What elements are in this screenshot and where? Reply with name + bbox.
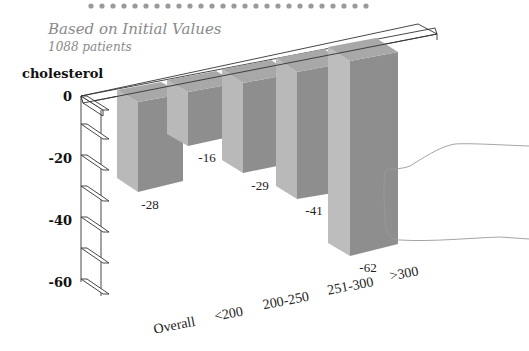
bar-chart: 0 -20 -40 -60 -28 -16 -29 -41 -62 Over <box>0 0 529 351</box>
y-tick-1: -20 <box>49 151 73 166</box>
value-label-gt300: -62 <box>359 260 376 275</box>
value-label-251-300: -41 <box>305 203 322 218</box>
y-axis <box>81 96 109 296</box>
bar-gt300 <box>328 38 398 256</box>
category-label-200-250: 200-250 <box>262 289 311 313</box>
category-label-gt300: >300 <box>388 263 419 283</box>
y-tick-0: 0 <box>63 89 72 104</box>
hand-drawn-annotation <box>384 144 529 241</box>
category-label-overall: Overall <box>152 314 196 337</box>
value-label-200-250: -29 <box>251 178 268 193</box>
value-label-overall: -28 <box>141 197 158 212</box>
y-tick-3: -60 <box>49 275 73 290</box>
category-label-251-300: 251-300 <box>326 274 375 298</box>
value-label-lt200: -16 <box>198 150 216 165</box>
category-label-lt200: <200 <box>213 304 244 324</box>
y-tick-2: -40 <box>49 213 73 228</box>
